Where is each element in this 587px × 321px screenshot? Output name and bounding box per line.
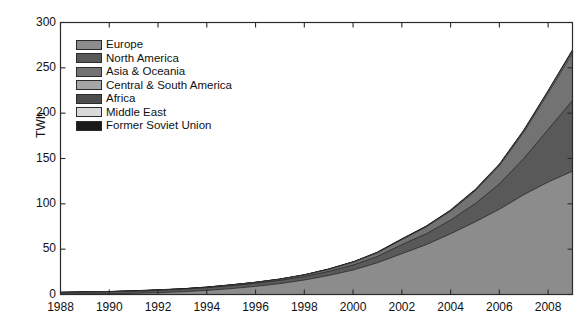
x-tick-label: 1998	[281, 300, 327, 314]
legend-swatch-icon	[76, 53, 102, 63]
legend-item-label: Europe	[106, 39, 143, 50]
legend-swatch-icon	[76, 121, 102, 131]
legend-swatch-icon	[76, 94, 102, 104]
legend-item[interactable]: North America	[76, 52, 232, 66]
legend-item[interactable]: Africa	[76, 92, 232, 106]
legend-item-label: Former Soviet Union	[106, 120, 211, 131]
legend-item-label: Central & South America	[106, 80, 232, 91]
legend-item-label: Middle East	[106, 107, 166, 118]
legend-item[interactable]: Central & South America	[76, 79, 232, 93]
legend-item-label: Africa	[106, 93, 135, 104]
x-tick-label: 2006	[476, 300, 522, 314]
legend-item[interactable]: Former Soviet Union	[76, 119, 232, 133]
legend-swatch-icon	[76, 67, 102, 77]
x-tick-label: 1994	[184, 300, 230, 314]
chart-legend: EuropeNorth AmericaAsia & OceaniaCentral…	[76, 38, 232, 133]
legend-item[interactable]: Middle East	[76, 106, 232, 120]
x-tick-label: 2000	[330, 300, 376, 314]
x-tick-label: 1988	[38, 300, 84, 314]
x-tick-label: 1990	[86, 300, 132, 314]
x-tick-label: 1996	[233, 300, 279, 314]
legend-item-label: Asia & Oceania	[106, 66, 185, 77]
legend-swatch-icon	[76, 40, 102, 50]
x-tick-label: 2004	[428, 300, 474, 314]
legend-item-label: North America	[106, 53, 179, 64]
legend-swatch-icon	[76, 80, 102, 90]
stacked-area-chart: TWh 050100150200250300 19881990199219941…	[0, 0, 587, 321]
x-tick-label: 1992	[135, 300, 181, 314]
legend-item[interactable]: Asia & Oceania	[76, 65, 232, 79]
legend-swatch-icon	[76, 107, 102, 117]
legend-item[interactable]: Europe	[76, 38, 232, 52]
x-tick-label: 2002	[379, 300, 425, 314]
x-tick-label: 2008	[525, 300, 571, 314]
